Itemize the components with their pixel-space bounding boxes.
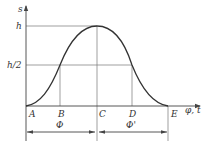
y-tick-half-h: h/2	[7, 60, 22, 70]
y-axis-label: s	[18, 4, 23, 14]
phi-label: Φ	[56, 120, 63, 130]
x-axis-label: φ, t	[185, 105, 201, 115]
displacement-diagram: s φ, t h h/2 A B C D E Φ Φ'	[0, 0, 209, 153]
phi-prime-label: Φ'	[126, 120, 136, 130]
point-b-label: B	[57, 109, 65, 119]
point-a-label: A	[28, 109, 36, 119]
y-tick-h: h	[16, 21, 22, 31]
point-d-label: D	[128, 109, 136, 119]
point-e-label: E	[170, 109, 178, 119]
point-c-label: C	[99, 109, 106, 119]
